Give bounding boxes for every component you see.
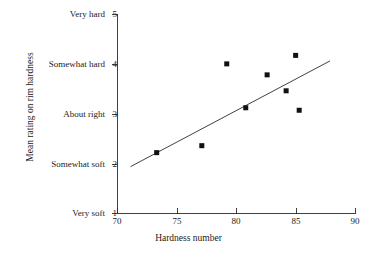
y-tick-label-1: Very soft 1	[72, 208, 117, 218]
chart-canvas	[0, 0, 377, 259]
y-tick-text-1: Very soft	[72, 208, 105, 218]
y-tick-text-5: Very hard	[70, 9, 105, 19]
data-point	[297, 108, 302, 113]
y-tick-value-2: 2	[110, 159, 117, 169]
x-tick-label-85: 85	[292, 216, 301, 226]
y-tick-label-5: Very hard 5	[70, 9, 117, 19]
y-axis-title: Mean rating on rim hardness	[25, 7, 35, 207]
data-point	[265, 72, 270, 77]
x-tick-label-70: 70	[113, 216, 122, 226]
y-tick-value-3: 3	[110, 109, 117, 119]
data-point	[243, 105, 248, 110]
x-axis-ticks	[118, 208, 356, 214]
y-tick-text-3: About right	[63, 109, 105, 119]
data-point	[284, 88, 289, 93]
data-point	[154, 150, 159, 155]
data-point	[293, 53, 298, 58]
x-tick-label-90: 90	[351, 216, 360, 226]
x-tick-label-75: 75	[173, 216, 182, 226]
scatter-chart: Very hard 5 Somewhat hard 4 About right …	[0, 0, 377, 259]
x-tick-label-80: 80	[232, 216, 241, 226]
x-axis-title: Hardness number	[0, 233, 377, 243]
y-tick-label-4: Somewhat hard 4	[49, 59, 117, 69]
y-tick-label-3: About right 3	[63, 109, 117, 119]
y-tick-value-5: 5	[110, 9, 117, 19]
y-tick-value-4: 4	[110, 59, 117, 69]
axes-group	[117, 14, 355, 214]
y-tick-label-2: Somewhat soft 2	[51, 159, 117, 169]
data-points-group	[154, 53, 302, 155]
y-tick-text-4: Somewhat hard	[49, 59, 105, 69]
data-point	[224, 61, 229, 66]
trendline	[131, 61, 331, 167]
y-tick-text-2: Somewhat soft	[51, 159, 105, 169]
data-point	[199, 143, 204, 148]
